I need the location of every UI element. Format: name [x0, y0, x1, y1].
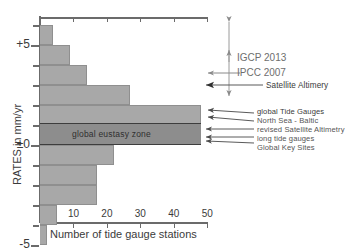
histogram-bar [40, 45, 70, 65]
histogram-bar [40, 25, 53, 45]
x-axis-tick [73, 17, 74, 22]
callout-global-key-sites: Global Key Sites [257, 143, 315, 152]
x-axis-tick [140, 17, 141, 22]
x-axis-tick [207, 17, 208, 22]
histogram-bar [40, 205, 57, 225]
y-axis-tick-minor [33, 25, 39, 27]
y-axis-tick-minor [33, 225, 39, 227]
y-axis-tick-minor [33, 185, 39, 187]
x-axis-tick-label: 40 [161, 208, 187, 219]
eustasy-zone-label: global eustasy zone [72, 129, 151, 139]
top-axis-line [40, 17, 208, 19]
y-axis-tick-major [31, 145, 39, 147]
y-axis-tick-major [31, 45, 39, 47]
histogram-bar [40, 185, 97, 205]
y-axis-tick-minor [33, 105, 39, 107]
histogram-bar [40, 225, 47, 245]
histogram-bar [40, 105, 201, 125]
histogram-bar [40, 65, 87, 85]
y-axis-title: RATES in mm/yr [11, 104, 23, 185]
y-axis-tick-minor [33, 205, 39, 207]
y-axis-tick-minor [33, 125, 39, 127]
y-axis-tick-major [31, 245, 39, 247]
callout-revised-satellite-altimetry: revised Satellite Altimetry [257, 125, 345, 134]
x-axis-line [40, 222, 208, 224]
y-axis-tick-label: +5 [2, 37, 30, 51]
callout-igcp-2013: IGCP 2013 [237, 52, 286, 63]
x-axis-tick-label: 30 [127, 208, 153, 219]
x-axis-tick-label: 10 [60, 208, 86, 219]
histogram-bar [40, 165, 97, 185]
histogram-bar [40, 145, 114, 165]
y-axis-tick-minor [33, 85, 39, 87]
x-axis-tick-label: 20 [94, 208, 120, 219]
y-axis-tick-minor [33, 65, 39, 67]
x-axis-tick [107, 17, 108, 22]
x-axis-tick [207, 223, 208, 228]
x-axis-title: Number of tide gauge stations [50, 228, 197, 240]
x-axis-tick [174, 17, 175, 22]
callout-ipcc-2007: IPCC 2007 [237, 67, 286, 78]
callout-north-sea-baltic: North Sea - Baltic [257, 116, 318, 125]
x-axis-tick-label: 50 [194, 208, 220, 219]
y-axis-tick-minor [33, 165, 39, 167]
histogram-bar [40, 85, 130, 105]
y-axis-tick-label: -5 [2, 237, 30, 251]
callout-long-tide-gauges: long tide gauges [257, 134, 314, 143]
callout-global-tide-gauges: global Tide Gauges [257, 107, 324, 116]
callout-satellite-altimetry: Satellite Altimery [266, 81, 328, 90]
